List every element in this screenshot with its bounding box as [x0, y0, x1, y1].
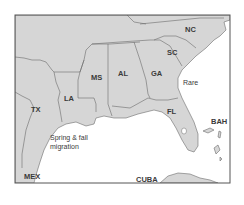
lake-okeechobee	[182, 128, 187, 134]
label-migration-line1: Spring & fall	[50, 134, 88, 142]
label-ga: GA	[151, 69, 163, 78]
label-nc: NC	[185, 25, 196, 34]
label-ms: MS	[91, 73, 102, 82]
label-bah: BAH	[211, 117, 227, 126]
label-fl: FL	[167, 107, 177, 116]
label-mex: MEX	[24, 172, 40, 181]
label-tx: TX	[31, 105, 41, 114]
label-cuba: CUBA	[136, 175, 158, 184]
label-migration-line2: migration	[50, 143, 79, 151]
label-la: LA	[64, 94, 75, 103]
label-al: AL	[118, 69, 128, 78]
range-map: NC SC GA AL MS LA TX FL Rare Spring & fa…	[0, 0, 244, 205]
label-sc: SC	[167, 48, 178, 57]
label-rare: Rare	[183, 79, 198, 86]
